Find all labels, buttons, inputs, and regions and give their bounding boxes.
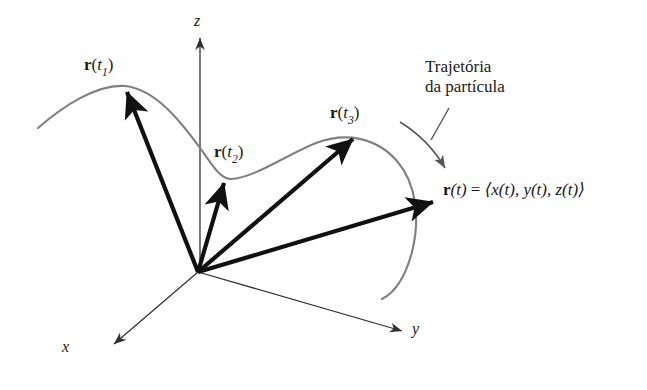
equation-arg: (t) <box>451 180 467 199</box>
callout-leader <box>400 108 449 168</box>
trajectory-curve <box>38 86 416 299</box>
vector-function-diagram: z y x r(t1) r(t2) r(t3) r(t) = ⟨x(t), y(… <box>0 0 647 390</box>
r-t2-subscript: 2 <box>232 153 238 165</box>
r-t1-subscript: 1 <box>102 66 108 78</box>
r-t3-subscript: 3 <box>348 114 354 126</box>
axis-label-y: y <box>412 320 419 339</box>
callout-line-1: Trajetória <box>425 57 505 77</box>
callout-line-2: da partícula <box>425 77 505 97</box>
label-r-t1: r(t1) <box>84 55 113 78</box>
equation-equals: = <box>471 180 481 199</box>
axis-y <box>198 272 402 331</box>
equation-r-of-t: r(t) = ⟨x(t), y(t), z(t)⟩ <box>443 180 585 200</box>
vector-r-t <box>198 202 433 272</box>
equation-bold-r: r <box>443 180 451 199</box>
r-t1-close-paren: ) <box>108 55 114 74</box>
callout-trajectory: Trajetória da partícula <box>425 57 505 97</box>
label-r-t2: r(t2) <box>214 142 243 165</box>
r-t2-bold-r: r <box>214 142 222 161</box>
r-t1-bold-r: r <box>84 55 92 74</box>
r-t3-close-paren: ) <box>354 103 360 122</box>
equation-components: ⟨x(t), y(t), z(t)⟩ <box>485 180 585 199</box>
r-t3-bold-r: r <box>330 103 338 122</box>
r-t2-close-paren: ) <box>238 142 244 161</box>
axis-x <box>114 272 198 344</box>
axis-label-x: x <box>62 338 69 357</box>
vector-r-t1 <box>127 92 198 272</box>
label-r-t3: r(t3) <box>330 103 359 126</box>
axis-label-z: z <box>194 12 200 31</box>
